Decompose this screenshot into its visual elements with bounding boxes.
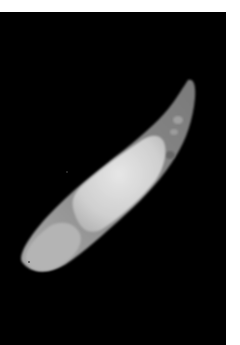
specimen-illustration bbox=[0, 12, 226, 345]
specimen-photo bbox=[0, 12, 226, 345]
specimen-lower-cap bbox=[26, 223, 81, 272]
